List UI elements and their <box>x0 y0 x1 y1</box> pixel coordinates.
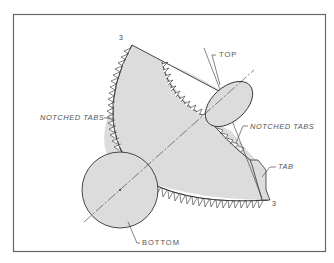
label-notched-tabs-right: NOTCHED TABS <box>250 122 314 131</box>
label-top: TOP <box>219 50 237 59</box>
cone-pattern-diagram: NOTCHED TABS NOTCHED TABS TOP BOTTOM TAB… <box>0 0 334 263</box>
leader-top <box>212 55 220 85</box>
mark-3-top: 3 <box>119 34 123 41</box>
label-notched-tabs-left: NOTCHED TABS <box>40 113 104 122</box>
label-bottom: BOTTOM <box>142 238 180 247</box>
label-tab: TAB <box>278 162 294 171</box>
mark-3-bottom: 3 <box>272 200 276 207</box>
